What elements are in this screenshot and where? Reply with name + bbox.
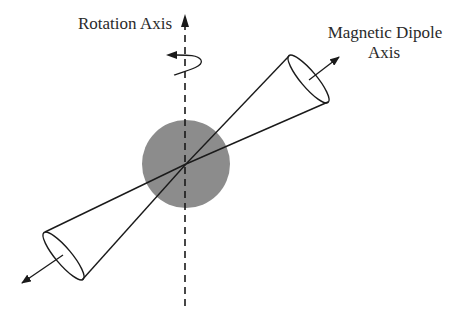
- rotation-axis-arrowhead-icon: [181, 14, 189, 27]
- dipole-axis-label-line2: Axis: [368, 43, 400, 62]
- dipole-arrow-lower: [22, 255, 63, 283]
- dipole-arrow-upper: [309, 57, 339, 80]
- pulsar-diagram: Rotation Axis Magnetic Dipole Axis: [0, 0, 463, 324]
- rotation-curl-icon: [174, 55, 201, 75]
- dipole-axis-label-line1: Magnetic Dipole: [328, 23, 443, 42]
- rotation-curl-arrowhead-icon: [166, 51, 177, 59]
- rotation-axis-label: Rotation Axis: [78, 14, 172, 33]
